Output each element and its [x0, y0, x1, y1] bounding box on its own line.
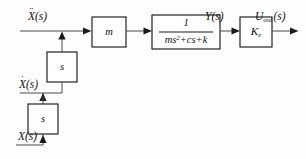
signal-base-acceleration: X¨ [28, 11, 35, 23]
gain-subscript-e: e [258, 31, 261, 38]
block-diagram-canvas: X¨(s) X˙(s) X(s) Y(s) Uout(s) m 1 ms2+cs… [0, 0, 306, 159]
arrowhead-output [290, 27, 299, 34]
transfer-function-numerator: 1 [152, 18, 220, 29]
block-label-mass: m [92, 27, 126, 38]
signal-label-voltage-output: Uout(s) [255, 11, 286, 24]
accent-double-dot: ¨ [30, 6, 34, 17]
arrowhead-into-gain-block [232, 27, 241, 34]
accent-single-dot: ˙ [21, 74, 25, 85]
signal-base-velocity: X˙ [19, 79, 26, 91]
transfer-function-denominator: ms2+cs+k [152, 35, 220, 46]
signal-label-input-acceleration: X¨(s) [28, 11, 47, 23]
denominator-ms-term: ms [165, 34, 177, 45]
arrowhead-displacement-into-lower-s [39, 135, 46, 143]
denominator-rest: +cs+k [180, 34, 208, 45]
block-label-integrator-lower: s [28, 114, 58, 125]
signal-arg-acceleration: (s) [35, 10, 47, 22]
signal-base-displacement: X [18, 130, 25, 142]
signal-label-displacement: X(s) [18, 131, 37, 143]
signal-arg-velocity: (s) [26, 78, 38, 90]
arrowhead-upper-s-into-rail [58, 32, 65, 40]
block-label-gain: Ke [240, 26, 272, 38]
signal-arg-u: (s) [273, 10, 285, 22]
block-label-integrator-upper: s [47, 62, 77, 73]
signal-label-velocity: X˙(s) [19, 79, 38, 91]
signal-arg-displacement: (s) [25, 130, 37, 142]
signal-subscript-out: out [263, 16, 272, 24]
arrowhead-into-transfer-function [144, 27, 153, 34]
arrowhead-into-mass-block [83, 27, 92, 34]
